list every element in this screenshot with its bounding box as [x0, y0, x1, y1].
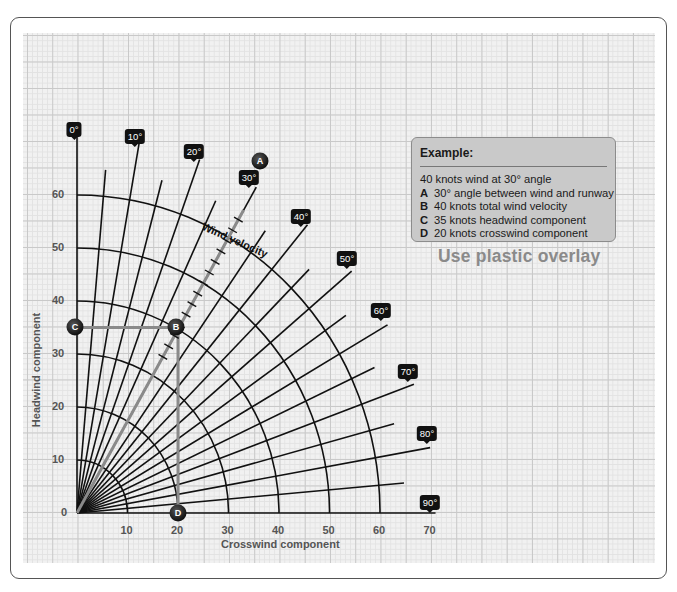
overlay-note: Use plastic overlay	[438, 246, 600, 267]
point-b-marker: B	[168, 319, 185, 336]
example-intro: 40 knots wind at 30° angle	[420, 173, 607, 187]
angle-radial-line	[77, 367, 374, 513]
point-d-marker: D	[170, 505, 187, 522]
angle-tag-20: 20°	[184, 144, 204, 159]
y-tick-label: 50	[52, 241, 64, 253]
angle-tag-70: 70°	[398, 364, 418, 379]
x-tick-label: 40	[272, 524, 284, 536]
x-axis-title: Crosswind component	[221, 538, 340, 550]
example-item-c: C35 knots headwind component	[420, 214, 607, 228]
example-legend-box: Example: 40 knots wind at 30° angle A30°…	[411, 137, 616, 242]
x-tick-label: 60	[373, 524, 385, 536]
y-tick-label: 40	[52, 294, 64, 306]
example-key: D	[420, 227, 434, 241]
angle-tag-30: 30°	[239, 170, 259, 185]
angle-tag-10: 10°	[125, 129, 145, 144]
example-text: 40 knots total wind velocity	[434, 200, 567, 212]
angle-tag-60: 60°	[371, 303, 391, 318]
angle-tag-80: 80°	[417, 426, 437, 441]
angle-radial-line	[77, 180, 162, 513]
y-tick-label: 60	[52, 188, 64, 200]
y-tick-label: 20	[52, 400, 64, 412]
x-tick-label: 10	[121, 524, 133, 536]
angle-tag-40: 40°	[291, 209, 311, 224]
example-key: A	[420, 187, 434, 201]
example-key: C	[420, 214, 434, 228]
angle-tag-90: 90°	[420, 495, 440, 510]
y-axis-title: Headwind component	[30, 313, 42, 427]
example-item-d: D20 knots crosswind component	[420, 227, 607, 241]
example-text: 35 knots headwind component	[434, 214, 586, 226]
y-tick-label: 30	[52, 347, 64, 359]
point-a-marker: A	[252, 153, 269, 170]
example-key: B	[420, 200, 434, 214]
example-text: 20 knots crosswind component	[434, 227, 588, 239]
example-text: 30° angle between wind and runway	[434, 187, 614, 199]
angle-radial-line	[77, 201, 216, 513]
crosswind-chart	[0, 0, 677, 592]
y-tick-label: 0	[61, 506, 67, 518]
x-tick-label: 50	[323, 524, 335, 536]
example-title: Example:	[420, 146, 607, 167]
angle-radial-line	[77, 424, 394, 513]
example-item-b: B40 knots total wind velocity	[420, 200, 607, 214]
angle-tag-0: 0°	[66, 122, 81, 137]
angle-tag-50: 50°	[337, 251, 357, 266]
x-tick-label: 20	[171, 524, 183, 536]
x-tick-label: 70	[424, 524, 436, 536]
y-tick-label: 10	[52, 453, 64, 465]
point-c-marker: C	[67, 319, 84, 336]
x-tick-label: 30	[222, 524, 234, 536]
example-item-a: A30° angle between wind and runway	[420, 187, 607, 201]
